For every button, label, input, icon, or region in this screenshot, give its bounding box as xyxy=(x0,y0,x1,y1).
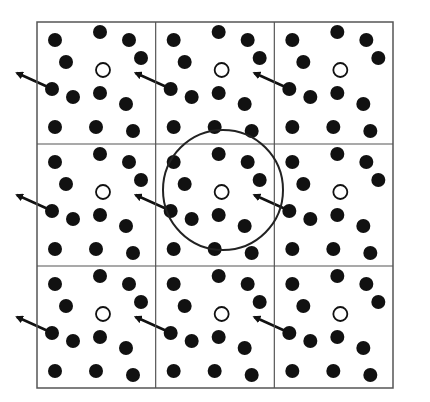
particle xyxy=(241,277,255,291)
particle xyxy=(48,242,62,256)
particle xyxy=(282,82,296,96)
particle xyxy=(93,208,107,222)
particle xyxy=(282,326,296,340)
particle xyxy=(238,341,252,355)
reference-particle xyxy=(96,63,110,77)
particle xyxy=(66,90,80,104)
reference-particle xyxy=(96,307,110,321)
particle xyxy=(167,242,181,256)
particle xyxy=(48,155,62,169)
particle xyxy=(126,368,140,382)
particle xyxy=(253,295,267,309)
particle xyxy=(326,364,340,378)
particle xyxy=(245,246,259,260)
particle xyxy=(185,334,199,348)
particle xyxy=(330,147,344,161)
particle xyxy=(134,173,148,187)
velocity-arrow-icon xyxy=(17,317,48,331)
velocity-arrow-icon xyxy=(136,195,167,209)
particle xyxy=(241,33,255,47)
particle xyxy=(212,269,226,283)
particle xyxy=(134,295,148,309)
particle xyxy=(185,90,199,104)
particle xyxy=(167,33,181,47)
particle xyxy=(45,82,59,96)
particle xyxy=(330,269,344,283)
particle xyxy=(185,212,199,226)
particle xyxy=(212,147,226,161)
reference-particle xyxy=(333,185,347,199)
particle xyxy=(178,55,192,69)
particle xyxy=(296,299,310,313)
particle xyxy=(253,173,267,187)
velocity-arrow-icon xyxy=(136,73,167,87)
particle xyxy=(167,277,181,291)
particle xyxy=(167,364,181,378)
particle xyxy=(93,25,107,39)
simulation-cells xyxy=(17,25,385,382)
reference-particle xyxy=(96,185,110,199)
particle xyxy=(253,51,267,65)
particle xyxy=(134,51,148,65)
particle xyxy=(303,212,317,226)
particle xyxy=(241,155,255,169)
particle xyxy=(45,326,59,340)
particle xyxy=(48,277,62,291)
particle xyxy=(371,51,385,65)
particle xyxy=(48,364,62,378)
particle xyxy=(330,330,344,344)
particle xyxy=(363,368,377,382)
particle xyxy=(303,334,317,348)
particle xyxy=(282,204,296,218)
particle xyxy=(363,246,377,260)
particle xyxy=(89,120,103,134)
velocity-arrow-icon xyxy=(254,317,285,331)
particle xyxy=(122,155,136,169)
particle xyxy=(212,330,226,344)
particle xyxy=(59,55,73,69)
particle xyxy=(285,120,299,134)
particle xyxy=(93,86,107,100)
particle xyxy=(356,97,370,111)
particle xyxy=(119,341,133,355)
particle xyxy=(238,97,252,111)
particle xyxy=(164,326,178,340)
particle xyxy=(285,364,299,378)
particle xyxy=(59,177,73,191)
reference-particle xyxy=(215,185,229,199)
particle xyxy=(359,277,373,291)
particle xyxy=(359,33,373,47)
particle xyxy=(285,277,299,291)
particle xyxy=(296,55,310,69)
particle xyxy=(363,124,377,138)
particle xyxy=(330,25,344,39)
particle xyxy=(238,219,252,233)
particle xyxy=(48,120,62,134)
particle xyxy=(178,177,192,191)
particle xyxy=(119,97,133,111)
particle xyxy=(285,155,299,169)
particle xyxy=(126,246,140,260)
particle xyxy=(119,219,133,233)
reference-particle xyxy=(333,63,347,77)
periodic-boundary-diagram xyxy=(0,0,430,402)
particle xyxy=(212,86,226,100)
particle xyxy=(303,90,317,104)
particle xyxy=(285,242,299,256)
particle xyxy=(167,120,181,134)
reference-particle xyxy=(215,307,229,321)
particle xyxy=(48,33,62,47)
particle xyxy=(285,33,299,47)
velocity-arrow-icon xyxy=(254,73,285,87)
particle xyxy=(66,334,80,348)
velocity-arrow-icon xyxy=(17,73,48,87)
particle xyxy=(164,82,178,96)
particle xyxy=(326,242,340,256)
particle xyxy=(89,242,103,256)
particle xyxy=(212,25,226,39)
particle xyxy=(245,368,259,382)
particle xyxy=(126,124,140,138)
particle xyxy=(371,173,385,187)
particle xyxy=(89,364,103,378)
particle xyxy=(359,155,373,169)
